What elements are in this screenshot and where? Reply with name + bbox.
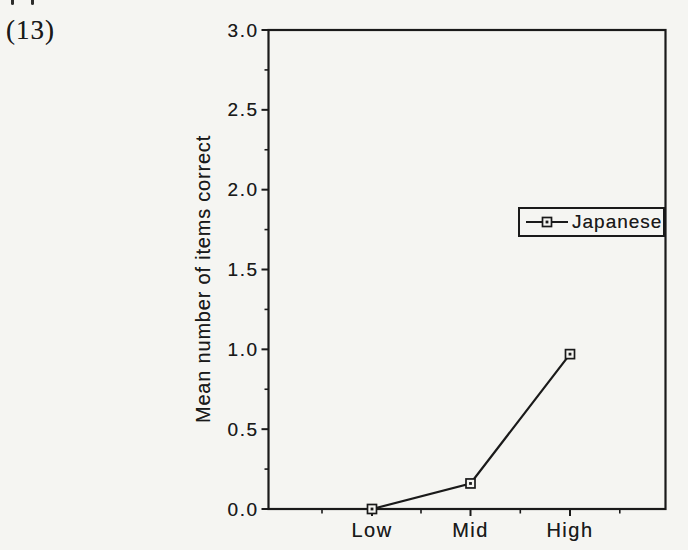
scanned-page: (13) 3.02.52.01.51.00.50.0LowMidHigh Mea… [0,0,688,550]
legend-sample-marker-dot [546,221,549,224]
data-point-marker-dot [469,482,472,485]
x-tick-label: Low [351,519,392,541]
data-point-marker-dot [569,353,572,356]
data-point-marker-dot [371,508,374,511]
y-axis-title: Mean number of items correct [192,135,215,423]
x-tick-label: Mid [452,519,489,541]
legend-box: Japanese [518,207,665,237]
y-tick-label: 3.0 [228,20,259,41]
y-tick-label: 2.0 [228,179,259,200]
x-tick-label: High [546,519,593,541]
y-tick-label: 1.0 [228,339,259,360]
legend-label: Japanese [572,211,662,233]
chart-canvas: 3.02.52.01.51.00.50.0LowMidHigh [0,0,688,550]
legend-series-sample-icon [526,215,568,229]
y-tick-label: 2.5 [228,99,259,120]
y-tick-label: 0.5 [228,419,259,440]
plot-border [269,30,666,509]
y-tick-label: 1.5 [228,259,259,280]
y-tick-label: 0.0 [228,499,259,520]
